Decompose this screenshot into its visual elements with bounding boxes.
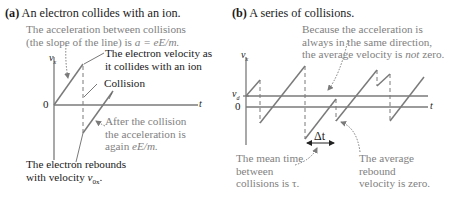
panel-b-x-axis-label: t: [430, 100, 433, 111]
panel-b-rebound-note: The average rebound velocity is zero.: [359, 152, 430, 190]
panel-a-acceleration-note: The acceleration between collisions (the…: [26, 23, 186, 48]
panel-b-average-velocity-note: Because the acceleration is always in th…: [302, 23, 444, 61]
panel-b-label: (b): [232, 6, 247, 20]
panel-a-zero-label: 0: [43, 98, 49, 110]
panel-a-after-collision-note: After the collision the acceleration is …: [105, 115, 186, 153]
panel-b-mean-time-note: The mean time between collisions is τ.: [236, 152, 303, 190]
panel-a-x-axis-label: t: [199, 98, 202, 109]
panel-a-y-axis-label: vx: [49, 52, 56, 65]
panel-a-collision-label: Collision: [104, 77, 145, 90]
panel-a-rebound-note: The electron rebounds with velocity v0x.: [26, 158, 126, 188]
panel-a-title: (a) An electron collides with an ion.: [5, 6, 181, 21]
panel-a-velocity-note: The electron velocity as it collides wit…: [105, 47, 212, 72]
panel-b-drift-velocity-label: vd: [232, 88, 239, 101]
panel-b-zero-label: 0: [235, 100, 241, 112]
panel-b-velocity-sawtooth: [246, 66, 424, 139]
panel-b-y-axis-label: vx: [241, 49, 248, 62]
panel-b-title: (b) A series of collisions.: [232, 6, 354, 21]
panel-a-label: (a): [5, 6, 19, 20]
delta-t-label: Δt: [314, 129, 325, 144]
